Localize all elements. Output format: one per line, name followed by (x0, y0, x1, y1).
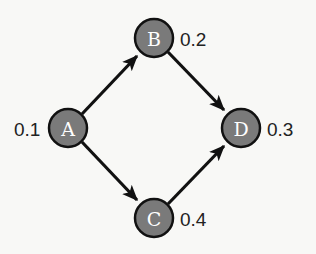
node-a-value: 0.1 (14, 119, 40, 140)
node-a-label: A (60, 118, 75, 140)
node-c: C 0.4 (135, 199, 207, 237)
edge-a-to-c (82, 142, 137, 200)
node-b-label: B (147, 28, 161, 50)
edge-c-to-d (168, 146, 224, 204)
node-c-value: 0.4 (180, 209, 207, 230)
node-a: A 0.1 (14, 109, 87, 147)
edges (82, 52, 224, 204)
dag-diagram: A 0.1 B 0.2 C 0.4 D 0.3 (0, 0, 316, 254)
node-c-label: C (147, 208, 162, 230)
node-b: B 0.2 (135, 19, 206, 57)
edge-b-to-d (168, 52, 224, 110)
node-b-value: 0.2 (180, 29, 206, 50)
node-d-value: 0.3 (267, 119, 293, 140)
node-d: D 0.3 (222, 109, 293, 147)
edge-a-to-b (82, 56, 137, 114)
node-d-label: D (233, 118, 248, 140)
